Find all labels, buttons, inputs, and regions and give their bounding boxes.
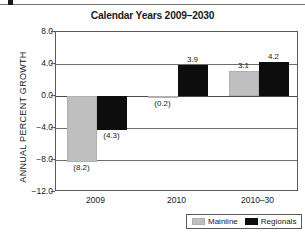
y-tick-label: 8.0: [7, 26, 53, 36]
legend-item-mainline: Mainline: [192, 217, 238, 226]
bar-regionals-201030: [259, 62, 289, 96]
bar-regionals-2009: [97, 96, 127, 130]
legend-item-regionals: Regionals: [245, 217, 297, 226]
y-tick-label: −12.0: [7, 186, 53, 196]
x-tick-label: 2010–30: [218, 195, 298, 205]
y-tick-label: 4.0: [7, 58, 53, 68]
page-corner-mark: [8, 0, 13, 5]
x-tick-label: 2010: [137, 195, 217, 205]
bar-value-label: (8.2): [59, 163, 105, 172]
plot-area: (8.2)(0.2)3.1(4.3)3.94.2: [55, 31, 298, 191]
bar-mainline-201030: [229, 71, 259, 96]
bar-value-label: 4.2: [251, 52, 297, 61]
y-tick-label: −4.0: [7, 122, 53, 132]
bar-mainline-2009: [67, 96, 97, 162]
x-tick-label: 2009: [56, 195, 136, 205]
legend-label-regionals: Regionals: [261, 217, 297, 226]
bar-value-label: 3.9: [170, 55, 216, 64]
page-rule: [0, 4, 305, 5]
y-tick-label: 0.0: [7, 90, 53, 100]
bar-value-label: (4.3): [89, 131, 135, 140]
legend-swatch-mainline-icon: [192, 218, 205, 225]
bar-value-label: (0.2): [140, 99, 186, 108]
chart-figure: Calendar Years 2009–2030 ANNUAL PERCENT …: [0, 0, 305, 234]
legend-swatch-regionals-icon: [245, 218, 258, 225]
chart-title: Calendar Years 2009–2030: [11, 9, 295, 21]
y-tick-mark: [51, 191, 55, 192]
legend-label-mainline: Mainline: [208, 217, 238, 226]
chart-legend: Mainline Regionals: [186, 214, 302, 229]
y-tick-label: −8.0: [7, 154, 53, 164]
bar-regionals-2010: [178, 65, 208, 96]
